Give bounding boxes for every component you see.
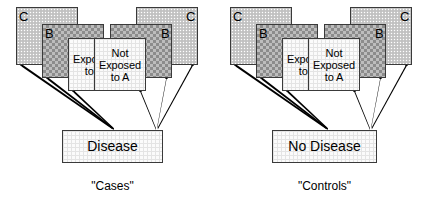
layer-c-label-controls-unexposed: C [400, 10, 409, 23]
wedge-cases-unexposed-b [157, 77, 167, 130]
wedge-controls-unexposed-a [355, 90, 371, 130]
layer-b-label-cases-exposed: B [45, 27, 54, 40]
layer-c-label-cases-unexposed: C [186, 10, 195, 23]
layer-b-label-controls-exposed: B [259, 27, 268, 40]
layer-a-controls-unexposed: Not Exposed to A [308, 38, 360, 91]
wedge-controls-unexposed-b [371, 77, 381, 130]
wedge-cases-unexposed-a [141, 90, 157, 130]
case-control-exposure-diagram: C B Exposed to A C B Not Exposed to A Di… [0, 0, 428, 204]
outcome-label-no-disease: No Disease [288, 139, 360, 154]
wedge-cases-exposed-a [74, 90, 115, 130]
layer-a-label-cases-unexposed: Not Exposed to A [99, 47, 141, 83]
layer-c-label-controls-exposed: C [233, 10, 242, 23]
outcome-box-disease: Disease [62, 130, 163, 163]
layer-c-label-cases-exposed: C [19, 10, 28, 23]
layer-a-cases-unexposed: Not Exposed to A [94, 38, 146, 91]
outcome-box-no-disease: No Disease [272, 130, 377, 163]
layer-a-label-controls-unexposed: Not Exposed to A [313, 47, 355, 83]
layer-b-label-cases-unexposed: B [161, 27, 170, 40]
layer-b-label-controls-unexposed: B [375, 27, 384, 40]
panel-caption-controls: "Controls" [272, 180, 377, 193]
wedge-controls-exposed-a [288, 90, 329, 130]
outcome-label-disease: Disease [87, 139, 138, 154]
panel-caption-cases: "Cases" [62, 180, 163, 193]
